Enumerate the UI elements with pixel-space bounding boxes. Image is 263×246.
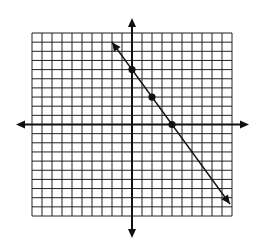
x-axis-left-arrow-icon <box>16 121 25 129</box>
line-arrow-end-icon <box>221 194 230 204</box>
coordinate-plane <box>0 0 263 246</box>
data-point <box>128 66 135 73</box>
x-axis-right-arrow-icon <box>240 121 249 129</box>
data-point <box>148 93 155 100</box>
line-arrow-start-icon <box>112 42 121 52</box>
data-point <box>168 121 175 128</box>
y-axis-up-arrow-icon <box>128 18 136 27</box>
y-axis-down-arrow-icon <box>128 229 136 238</box>
